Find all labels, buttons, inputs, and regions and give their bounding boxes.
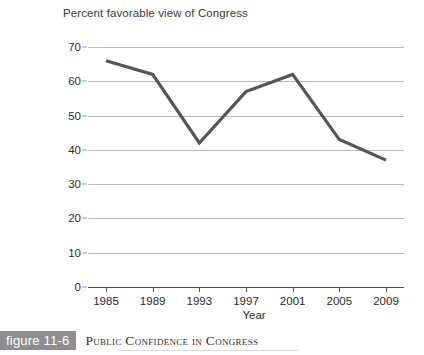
x-tick-mark (293, 287, 294, 292)
x-tick-label: 2005 (327, 295, 353, 307)
x-tick-label: 2001 (280, 295, 306, 307)
y-tick-label: 0 (75, 281, 81, 293)
x-tick-mark (386, 287, 387, 292)
x-tick-mark (153, 287, 154, 292)
y-tick-label: 50 (68, 110, 81, 122)
x-tick-mark (199, 287, 200, 292)
plot-area: 010203040506070 198519891993199720012005… (88, 47, 404, 287)
y-tick-mark (82, 115, 87, 116)
x-tick-label: 2009 (373, 295, 399, 307)
figure-number-badge: figure 11-6 (0, 331, 76, 350)
x-tick-label: 1989 (140, 295, 166, 307)
x-tick-mark (106, 287, 107, 292)
data-series-line (88, 47, 404, 287)
y-tick-label: 10 (68, 247, 81, 259)
x-tick-label: 1997 (233, 295, 259, 307)
x-tick-label: 1993 (187, 295, 213, 307)
y-tick-label: 40 (68, 144, 81, 156)
caption-rule (118, 350, 298, 351)
figure-caption: figure 11-6 Public Confidence in Congres… (0, 331, 424, 350)
x-tick-label: 1985 (93, 295, 119, 307)
y-tick-label: 60 (68, 75, 81, 87)
x-tick-mark (339, 287, 340, 292)
y-tick-mark (82, 149, 87, 150)
y-tick-mark (82, 81, 87, 82)
x-axis-title-label: Year (158, 309, 265, 321)
y-tick-mark (82, 252, 87, 253)
y-tick-mark (82, 184, 87, 185)
y-tick-mark (82, 287, 87, 288)
y-tick-mark (82, 47, 87, 48)
figure-page: { "chart_data": { "type": "line", "title… (0, 0, 424, 355)
figure-caption-title: Public Confidence in Congress (85, 333, 258, 349)
y-tick-label: 20 (68, 212, 81, 224)
y-tick-mark (82, 218, 87, 219)
x-tick-mark (246, 287, 247, 292)
y-tick-label: 30 (68, 178, 81, 190)
chart-title: Percent favorable view of Congress (63, 7, 248, 19)
x-axis-title: Year (0, 309, 424, 321)
y-tick-label: 70 (68, 41, 81, 53)
